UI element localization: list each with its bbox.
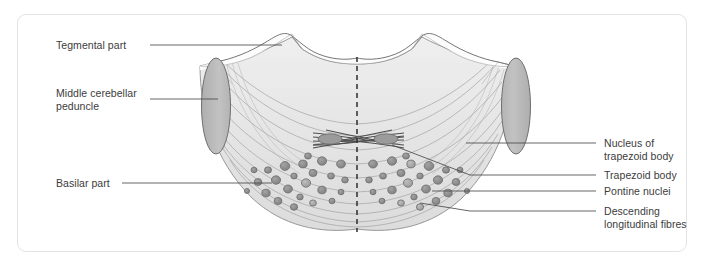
nucleus-of-trapezoid-body-left <box>318 134 342 144</box>
label-tegmental-part: Tegmental part <box>56 39 151 52</box>
label-descending-longitudinal-fibres: Descending longitudinal fibres <box>604 205 704 231</box>
label-pontine-nuclei: Pontine nuclei <box>604 185 700 198</box>
label-basilar-part: Basilar part <box>56 177 136 190</box>
middle-cerebellar-peduncle-left <box>202 58 231 154</box>
label-nucleus-of-trapezoid-body: Nucleus of trapezoid body <box>604 137 700 163</box>
nucleus-of-trapezoid-body-right <box>374 134 398 144</box>
label-trapezoid-body: Trapezoid body <box>604 169 700 182</box>
middle-cerebellar-peduncle-right <box>502 58 531 154</box>
figure-root: Tegmental part Middle cerebellar peduncl… <box>0 0 706 272</box>
label-middle-cerebellar-peduncle: Middle cerebellar peduncle <box>56 87 156 113</box>
